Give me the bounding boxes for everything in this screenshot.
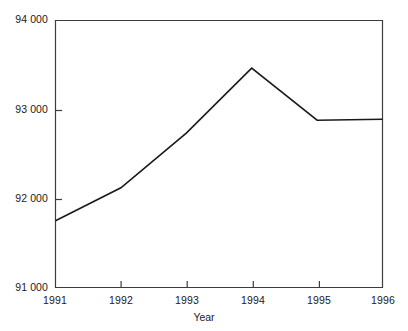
x-axis-label-1991: 1991 — [31, 295, 79, 306]
y-axis-label-93000: 93 000 — [0, 104, 48, 115]
x-axis-label-1996: 1996 — [359, 295, 407, 306]
x-axis-label-1994: 1994 — [229, 295, 277, 306]
x-axis-label-1993: 1993 — [163, 295, 211, 306]
x-axis-label-1992: 1992 — [97, 295, 145, 306]
y-axis-label-91000: 91 000 — [0, 282, 48, 293]
y-axis-label-94000: 94 000 — [0, 14, 48, 25]
x-axis-title: Year — [0, 311, 408, 323]
chart-background — [0, 0, 408, 331]
line-chart-figure: 94 000 93 000 92 000 91 000 1991 1992 19… — [0, 0, 408, 331]
chart-plot-area — [0, 0, 408, 331]
x-axis-label-1995: 1995 — [295, 295, 343, 306]
y-axis-label-92000: 92 000 — [0, 193, 48, 204]
